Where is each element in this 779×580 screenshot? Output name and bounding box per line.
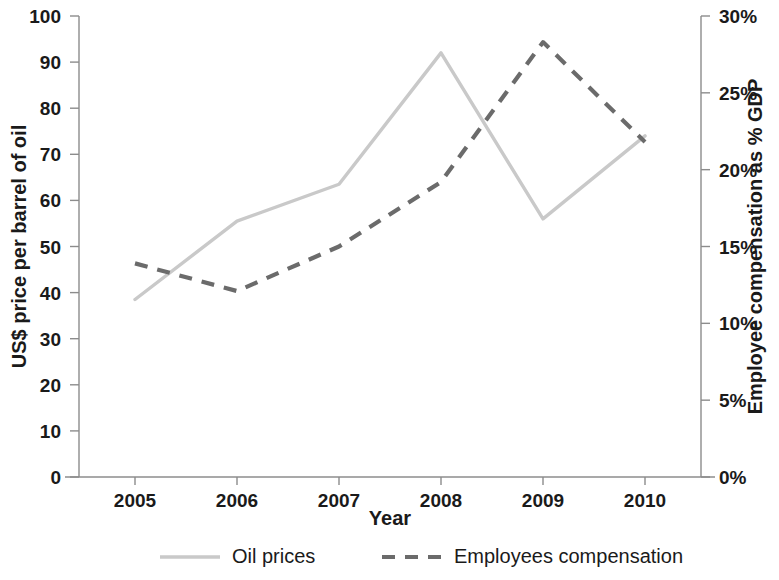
left-axis-title: US$ price per barrel of oil [8, 125, 30, 368]
left-tick-label: 40 [40, 283, 61, 304]
left-tick-label: 100 [29, 6, 61, 27]
axes-group [65, 16, 715, 477]
right-axis-title: Employee compensation as % GDP [744, 79, 766, 415]
right-tick-label: 5% [719, 390, 747, 411]
x-axis-ticks: 200520062007200820092010 [114, 477, 666, 511]
left-axis-ticks: 0102030405060708090100 [29, 6, 79, 488]
left-tick-label: 10 [40, 421, 61, 442]
legend-label-employees-compensation: Employees compensation [454, 545, 683, 567]
x-tick-label: 2009 [522, 490, 564, 511]
x-tick-label: 2005 [114, 490, 157, 511]
x-axis-title: Year [369, 507, 411, 529]
left-tick-label: 30 [40, 329, 61, 350]
left-tick-label: 60 [40, 190, 61, 211]
x-tick-label: 2008 [420, 490, 462, 511]
series-line-employees-compensation [135, 42, 645, 291]
chart-legend: Oil pricesEmployees compensation [160, 545, 683, 567]
series-group [135, 42, 645, 299]
right-tick-label: 0% [719, 467, 747, 488]
chart-container: 0102030405060708090100 0%5%10%15%20%25%3… [0, 0, 779, 580]
left-tick-label: 90 [40, 52, 61, 73]
x-tick-label: 2006 [216, 490, 258, 511]
x-tick-label: 2010 [624, 490, 666, 511]
line-chart: 0102030405060708090100 0%5%10%15%20%25%3… [0, 0, 779, 580]
left-tick-label: 80 [40, 98, 61, 119]
legend-label-oil-prices: Oil prices [232, 545, 315, 567]
right-tick-label: 30% [719, 6, 757, 27]
left-tick-label: 70 [40, 144, 61, 165]
series-line-oil-prices [135, 53, 645, 300]
left-tick-label: 50 [40, 237, 61, 258]
x-tick-label: 2007 [318, 490, 360, 511]
left-tick-label: 20 [40, 375, 61, 396]
left-tick-label: 0 [50, 467, 61, 488]
